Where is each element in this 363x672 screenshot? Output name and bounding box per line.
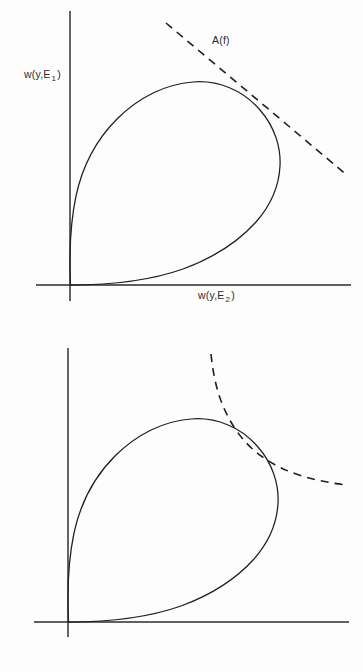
supporting-curve-ac (211, 354, 348, 485)
chart-panel-top: w(y,E1) w(y,E2) A(f) (0, 0, 363, 336)
x-axis-label-top: w(y,E2) (198, 289, 235, 301)
attainable-set-curve (68, 419, 278, 622)
y-axis-label-top: w(y,E1) (24, 68, 61, 80)
x-axis-label-tail: ) (231, 289, 235, 301)
chart-svg-top (0, 0, 363, 336)
supporting-hyperplane-line (166, 23, 348, 176)
x-axis-label-text: w(y,E (198, 289, 224, 301)
y-axis-label-tail: ) (57, 68, 61, 80)
y-axis-label-text: w(y,E (24, 68, 50, 80)
attainable-set-curve (70, 82, 280, 285)
x-axis-label-subscript: 2 (224, 295, 231, 304)
y-axis-label-subscript: 1 (50, 74, 57, 83)
chart-panel-bottom: w(y,E1) w(y,E2) A(c) (0, 336, 363, 672)
figure-container: w(y,E1) w(y,E2) A(f) w(y,E1) w(y,E2) A(c… (0, 0, 363, 672)
chart-svg-bottom (0, 336, 363, 672)
annotation-label-af: A(f) (212, 34, 230, 46)
